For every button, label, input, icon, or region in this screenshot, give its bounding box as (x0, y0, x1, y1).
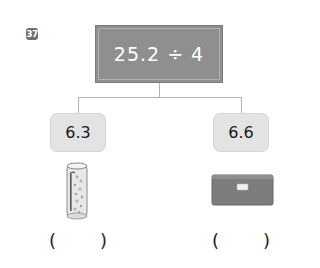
answer-blank-right-open: ( (212, 230, 219, 251)
answer-blank-right-close: ) (263, 230, 270, 251)
expression-text: 25.2 ÷ 4 (96, 26, 222, 82)
answer-blank-left-close: ) (100, 230, 107, 251)
connector-left-drop (78, 97, 79, 113)
answer-blank-right[interactable] (223, 232, 263, 252)
connector-stem (159, 83, 160, 98)
connector-right-drop (241, 97, 242, 113)
connector-horizontal (78, 97, 242, 98)
problem-number-badge: 37 (26, 28, 38, 40)
cylinder-container-icon (64, 161, 90, 221)
box-icon (211, 174, 274, 206)
option-value-right: 6.6 (228, 123, 253, 142)
option-box-right: 6.6 (213, 113, 269, 152)
option-box-left: 6.3 (50, 113, 106, 152)
expression-box: 25.2 ÷ 4 (95, 25, 223, 83)
answer-blank-left[interactable] (60, 232, 100, 252)
answer-blank-left-open: ( (49, 230, 56, 251)
option-value-left: 6.3 (65, 123, 90, 142)
